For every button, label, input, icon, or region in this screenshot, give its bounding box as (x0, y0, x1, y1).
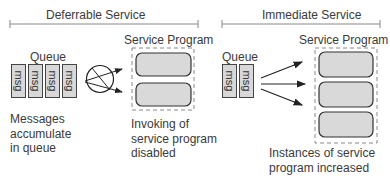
deferrable-queue-caption: Messages accumulate in queue (10, 112, 71, 156)
queue-message: msg (62, 64, 77, 98)
immediate-arrows (261, 62, 305, 105)
queue-message: msg (222, 64, 237, 98)
queue-message: msg (11, 64, 26, 98)
immediate-service-title: Immediate Service (262, 8, 361, 22)
prohibited-circle-icon (85, 66, 122, 93)
immediate-queue-label: Queue (222, 50, 258, 64)
queue-message: msg (45, 64, 60, 98)
queue-message: msg (239, 64, 254, 98)
immediate-service-program-label: Service Program (299, 33, 388, 47)
immediate-instance-2 (319, 82, 373, 107)
deferrable-instance-2 (136, 83, 191, 106)
queue-message: msg (28, 64, 43, 98)
immediate-instance-3 (319, 112, 373, 137)
deferrable-service-program-label: Service Program (124, 33, 213, 47)
immediate-instance-1 (319, 52, 373, 77)
immediate-program-caption: Instances of service program increased (269, 146, 375, 175)
deferrable-queue-label: Queue (30, 50, 66, 64)
deferrable-instance-1 (136, 53, 191, 76)
deferrable-service-title: Deferrable Service (46, 8, 145, 22)
deferrable-program-caption: Invoking of service program disabled (131, 117, 217, 161)
